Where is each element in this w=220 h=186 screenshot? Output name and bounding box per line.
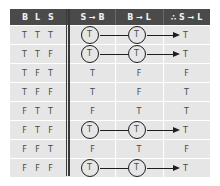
var-b-value: F bbox=[22, 164, 27, 173]
var-b-value: T bbox=[22, 50, 27, 59]
connector-line bbox=[147, 54, 175, 55]
var-l-value: F bbox=[35, 164, 40, 173]
therefore-s-implies-l-value: T bbox=[163, 83, 210, 101]
var-l-value: T bbox=[35, 107, 40, 116]
var-s-value: F bbox=[48, 164, 53, 173]
connector-line bbox=[100, 168, 128, 169]
var-s-value: T bbox=[48, 31, 53, 40]
table-row: T F F T F T bbox=[10, 82, 210, 101]
table-row: F T T F T T bbox=[10, 101, 210, 120]
b-implies-l-value: T bbox=[115, 140, 163, 158]
circled-value-s-implies-b: T bbox=[81, 159, 99, 177]
connector-line bbox=[147, 130, 175, 131]
arrow-right-icon bbox=[173, 165, 180, 171]
therefore-s-implies-l-value: F bbox=[163, 140, 210, 158]
header-var-b: B bbox=[22, 13, 27, 22]
var-l-value: F bbox=[35, 69, 40, 78]
circled-value-b-implies-l: T bbox=[128, 45, 146, 63]
circled-value-b-implies-l: T bbox=[128, 121, 146, 139]
row-vars: F T F bbox=[10, 121, 65, 139]
table-row: T T T T TT bbox=[10, 25, 210, 44]
header-vars: B L S bbox=[10, 9, 65, 25]
row-vars: F F F bbox=[10, 159, 65, 177]
row-vars: T T T bbox=[10, 26, 65, 44]
connector-line bbox=[100, 54, 128, 55]
var-b-value: F bbox=[22, 107, 27, 116]
connector-line bbox=[100, 35, 128, 36]
b-implies-l-value: T bbox=[115, 102, 163, 120]
row-vars: F F T bbox=[10, 140, 65, 158]
var-l-value: T bbox=[35, 126, 40, 135]
var-l-value: T bbox=[35, 31, 40, 40]
connector-line bbox=[147, 168, 175, 169]
double-divider bbox=[65, 9, 70, 176]
var-l-value: F bbox=[35, 145, 40, 154]
header-b-implies-l: B → L bbox=[115, 9, 163, 25]
var-b-value: F bbox=[22, 126, 27, 135]
var-b-value: T bbox=[22, 69, 27, 78]
arrow-right-icon bbox=[173, 127, 180, 133]
var-b-value: F bbox=[22, 145, 27, 154]
connector-line bbox=[100, 130, 128, 131]
table-header: B L S S → B B → L ∴ S → L bbox=[10, 9, 210, 25]
row-vars: F T T bbox=[10, 102, 65, 120]
b-implies-l-value: F bbox=[115, 64, 163, 82]
table-row: T T F T TT bbox=[10, 44, 210, 63]
header-var-s: S bbox=[48, 13, 53, 22]
therefore-s-implies-l-value: F bbox=[163, 64, 210, 82]
arrow-right-icon bbox=[173, 32, 180, 38]
row-vars: T F F bbox=[10, 83, 65, 101]
s-implies-b-value: F bbox=[70, 102, 115, 120]
header-s-implies-b: S → B bbox=[70, 9, 115, 25]
var-b-value: T bbox=[22, 88, 27, 97]
connector-line bbox=[147, 35, 175, 36]
header-var-l: L bbox=[35, 13, 40, 22]
b-implies-l-value: F bbox=[115, 83, 163, 101]
circled-value-s-implies-b: T bbox=[81, 121, 99, 139]
var-s-value: T bbox=[48, 69, 53, 78]
var-s-value: F bbox=[48, 50, 53, 59]
circled-value-b-implies-l: T bbox=[128, 26, 146, 44]
var-b-value: T bbox=[22, 31, 27, 40]
table-row: F T F T TT bbox=[10, 120, 210, 139]
truth-table: B L S S → B B → L ∴ S → L T T T T TT T T… bbox=[10, 9, 210, 177]
var-s-value: T bbox=[48, 145, 53, 154]
table-row: F F F T TT bbox=[10, 158, 210, 177]
row-vars: T T F bbox=[10, 45, 65, 63]
s-implies-b-value: T bbox=[70, 64, 115, 82]
therefore-s-implies-l-value: T bbox=[163, 102, 210, 120]
s-implies-b-value: F bbox=[70, 140, 115, 158]
circled-value-s-implies-b: T bbox=[81, 26, 99, 44]
header-therefore-s-implies-l: ∴ S → L bbox=[163, 9, 210, 25]
var-l-value: T bbox=[35, 50, 40, 59]
var-s-value: T bbox=[48, 107, 53, 116]
circled-value-s-implies-b: T bbox=[81, 45, 99, 63]
var-s-value: F bbox=[48, 126, 53, 135]
var-l-value: F bbox=[35, 88, 40, 97]
table-row: T F T T F F bbox=[10, 63, 210, 82]
var-s-value: F bbox=[48, 88, 53, 97]
table-row: F F T F T F bbox=[10, 139, 210, 158]
row-vars: T F T bbox=[10, 64, 65, 82]
s-implies-b-value: T bbox=[70, 83, 115, 101]
circled-value-b-implies-l: T bbox=[128, 159, 146, 177]
arrow-right-icon bbox=[173, 51, 180, 57]
